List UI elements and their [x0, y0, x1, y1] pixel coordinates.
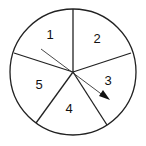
- section-label-3: 3: [104, 73, 111, 88]
- section-label-2: 2: [93, 31, 100, 46]
- section-label-1: 1: [46, 27, 53, 42]
- section-label-4: 4: [65, 101, 72, 116]
- section-label-5: 5: [35, 77, 42, 92]
- spinner-diagram: 1 2 3 4 5: [0, 0, 146, 146]
